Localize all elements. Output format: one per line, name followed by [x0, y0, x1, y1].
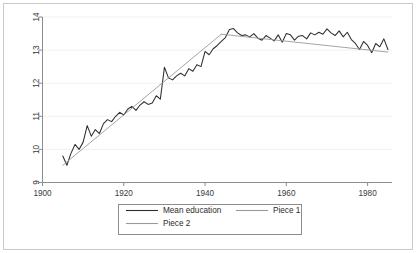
legend-label-piece-1: Piece 1 — [273, 206, 301, 215]
chart-figure: 91011121314 19001920194019601980 Mean ed… — [0, 0, 416, 253]
y-axis-tick-label: 10 — [32, 144, 41, 154]
y-axis-ticks — [39, 17, 43, 183]
gridlines — [43, 17, 393, 183]
data-series-group — [63, 29, 388, 166]
y-axis-tick-label: 11 — [32, 112, 41, 121]
y-axis-tick-label: 9 — [32, 180, 41, 185]
series-line-piece-1 — [63, 34, 221, 165]
x-axis-tick-label: 1980 — [359, 189, 378, 198]
line-chart-svg: 91011121314 19001920194019601980 Mean ed… — [0, 0, 416, 253]
axis-lines — [43, 17, 393, 183]
y-axis-tick-labels: 91011121314 — [32, 12, 41, 185]
y-axis-tick-label: 12 — [32, 78, 41, 88]
x-axis-tick-label: 1960 — [277, 189, 296, 198]
y-axis-tick-label: 14 — [32, 12, 41, 22]
plot-container: 91011121314 19001920194019601980 Mean ed… — [0, 0, 416, 253]
y-axis-tick-label: 13 — [32, 45, 41, 55]
legend-label-piece-2: Piece 2 — [163, 219, 191, 228]
x-axis-tick-label: 1940 — [196, 189, 215, 198]
x-axis-ticks — [43, 183, 368, 187]
x-axis-tick-labels: 19001920194019601980 — [33, 189, 377, 198]
series-line-mean-education — [63, 29, 388, 166]
x-axis-tick-label: 1920 — [115, 189, 134, 198]
x-axis-tick-label: 1900 — [33, 189, 52, 198]
legend-label-mean-education: Mean education — [163, 206, 222, 215]
chart-legend: Mean educationPiece 1Piece 2 — [119, 205, 302, 235]
